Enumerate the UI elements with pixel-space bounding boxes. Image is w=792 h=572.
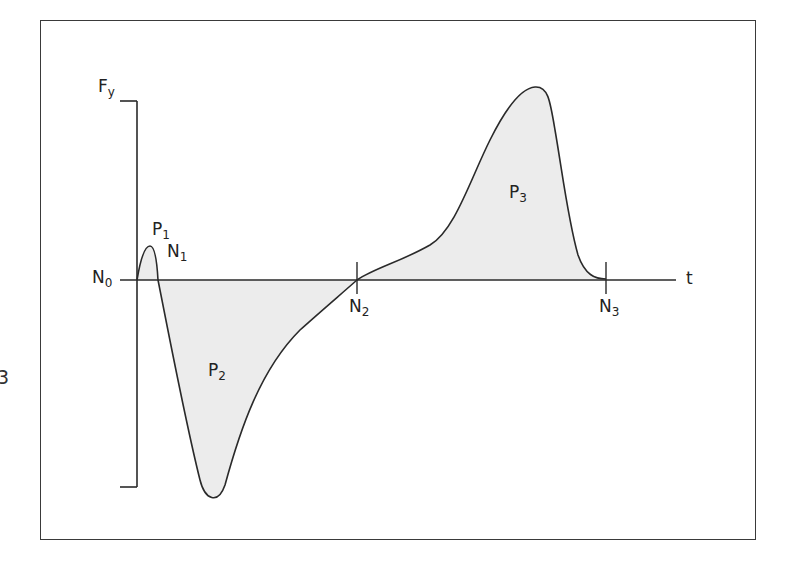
area-p3 xyxy=(357,87,606,280)
force-time-plot xyxy=(0,0,792,572)
label-p1: P1 xyxy=(152,221,170,241)
label-n0: N0 xyxy=(92,269,112,289)
area-p2 xyxy=(158,280,357,498)
label-n3: N3 xyxy=(599,298,619,318)
label-n1: N1 xyxy=(167,243,187,263)
label-p2: P2 xyxy=(208,362,226,382)
label-n2: N2 xyxy=(349,298,369,318)
x-axis-label: t xyxy=(686,270,693,287)
label-p3: P3 xyxy=(509,184,527,204)
margin-number: 3 xyxy=(0,366,9,388)
y-axis-label: Fy xyxy=(98,78,115,98)
y-axis-bracket xyxy=(120,101,137,487)
